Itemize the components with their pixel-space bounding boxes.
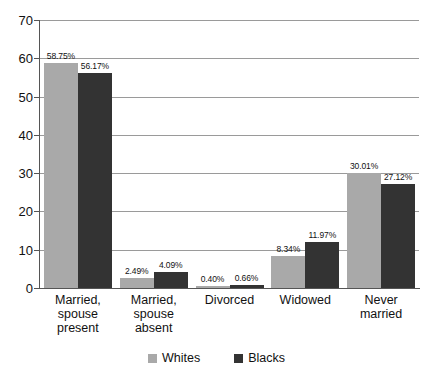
y-axis: 010203040506070 [0, 0, 33, 378]
bar-chart: 010203040506070 58.75%56.17%2.49%4.09%0.… [0, 0, 433, 378]
y-axis-tick-label: 40 [3, 128, 33, 141]
y-axis-tick-mark [34, 58, 40, 59]
category-label-line: Widowed [267, 293, 343, 307]
bar-value-label: 56.17% [81, 62, 109, 71]
category-label-line: present [40, 321, 116, 335]
category-label-line: Never [343, 293, 419, 307]
y-axis-tick-label: 0 [3, 282, 33, 295]
bar-value-label: 4.09% [159, 261, 183, 270]
x-axis-category-label: Divorced [192, 293, 268, 307]
bar-whites [196, 286, 230, 288]
y-axis-tick-mark [34, 20, 40, 21]
x-axis-category-label: Widowed [267, 293, 343, 307]
bar-blacks [305, 242, 339, 288]
category-label-line: spouse [40, 307, 116, 321]
x-axis-category-label: Nevermarried [343, 293, 419, 321]
bar-whites [347, 173, 381, 288]
category-label-line: Married, [40, 293, 116, 307]
bar-value-label: 58.75% [47, 52, 75, 61]
y-axis-tick-mark [34, 288, 40, 289]
legend-item-blacks[interactable]: Blacks [234, 352, 285, 365]
category-label-line: Divorced [192, 293, 268, 307]
bar-value-label: 8.34% [276, 245, 300, 254]
x-axis-category-label: Married,spouseabsent [116, 293, 192, 335]
y-axis-tick-label: 20 [3, 205, 33, 218]
legend-item-whites[interactable]: Whites [148, 352, 200, 365]
legend-label: Whites [162, 352, 200, 365]
y-axis-tick-mark [34, 250, 40, 251]
bar-value-label: 0.40% [201, 275, 225, 284]
legend-swatch-icon [234, 354, 243, 363]
y-axis-tick-mark [34, 211, 40, 212]
category-label-line: absent [116, 321, 192, 335]
x-axis-category-label: Married,spousepresent [40, 293, 116, 335]
category-label-line: Married, [116, 293, 192, 307]
bar-value-label: 2.49% [125, 267, 149, 276]
legend: WhitesBlacks [0, 352, 433, 365]
y-axis-tick-label: 50 [3, 90, 33, 103]
bars-layer: 58.75%56.17%2.49%4.09%0.40%0.66%8.34%11.… [40, 20, 419, 288]
bar-value-label: 0.66% [235, 274, 259, 283]
legend-label: Blacks [248, 352, 285, 365]
y-axis-tick-mark [34, 173, 40, 174]
bar-value-label: 27.12% [384, 173, 412, 182]
bar-value-label: 30.01% [350, 162, 378, 171]
bar-blacks [381, 184, 415, 288]
bar-whites [44, 63, 78, 288]
bar-blacks [78, 73, 112, 288]
x-axis-line [39, 288, 420, 289]
bar-blacks [154, 272, 188, 288]
legend-swatch-icon [148, 354, 157, 363]
bar-whites [271, 256, 305, 288]
y-axis-tick-label: 30 [3, 167, 33, 180]
category-label-line: spouse [116, 307, 192, 321]
y-axis-tick-mark [34, 97, 40, 98]
bar-value-label: 11.97% [308, 231, 336, 240]
y-axis-tick-label: 60 [3, 52, 33, 65]
y-axis-tick-mark [34, 135, 40, 136]
y-axis-tick-label: 10 [3, 243, 33, 256]
bar-blacks [230, 285, 264, 288]
bar-whites [120, 278, 154, 288]
y-axis-tick-label: 70 [3, 14, 33, 27]
category-label-line: married [343, 307, 419, 321]
